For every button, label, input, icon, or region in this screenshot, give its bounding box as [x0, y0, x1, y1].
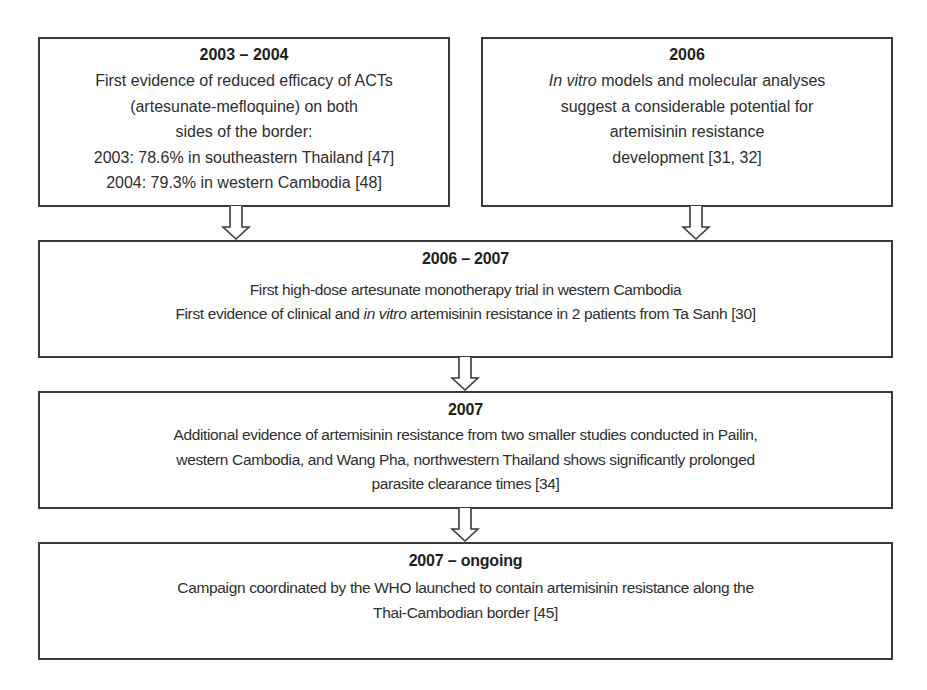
timeline-box-2003-2004: 2003 – 2004 First evidence of reduced ef…: [38, 37, 450, 207]
box-line: 2004: 79.3% in western Cambodia [48]: [40, 170, 448, 196]
box-title: 2003 – 2004: [40, 45, 448, 65]
line-rest: models and molecular analyses: [597, 72, 826, 89]
box-body: Campaign coordinated by the WHO launched…: [40, 576, 891, 625]
box-title: 2007 – ongoing: [40, 551, 891, 571]
box-line: Campaign coordinated by the WHO launched…: [40, 576, 891, 601]
box-title: 2007: [40, 400, 891, 420]
box-line: First evidence of reduced efficacy of AC…: [40, 68, 448, 94]
box-line: 2003: 78.6% in southeastern Thailand [47…: [40, 145, 448, 171]
box-title: 2006 – 2007: [40, 249, 891, 269]
box-line: suggest a considerable potential for: [483, 94, 891, 120]
box-line: sides of the border:: [40, 119, 448, 145]
timeline-box-2007-ongoing: 2007 – ongoing Campaign coordinated by t…: [38, 542, 893, 660]
box-title: 2006: [483, 45, 891, 65]
box-line: In vitro models and molecular analyses: [483, 68, 891, 94]
box-body: First high-dose artesunate monotherapy t…: [40, 278, 891, 326]
box-line: Additional evidence of artemisinin resis…: [40, 423, 891, 448]
box-body: First evidence of reduced efficacy of AC…: [40, 68, 448, 196]
line-rest: artemisinin resistance in 2 patients fro…: [406, 305, 755, 322]
box-line: (artesunate-mefloquine) on both: [40, 94, 448, 120]
down-arrow-icon: [450, 508, 480, 542]
down-arrow-icon: [450, 357, 480, 391]
box-body: Additional evidence of artemisinin resis…: [40, 423, 891, 497]
box-line: artemisinin resistance: [483, 119, 891, 145]
box-line: parasite clearance times [34]: [40, 472, 891, 497]
box-line: development [31, 32]: [483, 145, 891, 171]
box-body: In vitro models and molecular analyses s…: [483, 68, 891, 170]
line-pre: First evidence of clinical and: [175, 305, 363, 322]
timeline-box-2006-2007: 2006 – 2007 First high-dose artesunate m…: [38, 240, 893, 358]
italic-text: In vitro: [549, 72, 597, 89]
box-line: western Cambodia, and Wang Pha, northwes…: [40, 448, 891, 473]
box-line: Thai-Cambodian border [45]: [40, 601, 891, 626]
box-line: First high-dose artesunate monotherapy t…: [40, 278, 891, 302]
box-line: First evidence of clinical and in vitro …: [40, 302, 891, 326]
timeline-box-2007: 2007 Additional evidence of artemisinin …: [38, 391, 893, 509]
timeline-box-2006: 2006 In vitro models and molecular analy…: [481, 37, 893, 207]
italic-text: in vitro: [364, 305, 407, 322]
down-arrow-icon: [221, 206, 251, 240]
down-arrow-icon: [681, 206, 711, 240]
